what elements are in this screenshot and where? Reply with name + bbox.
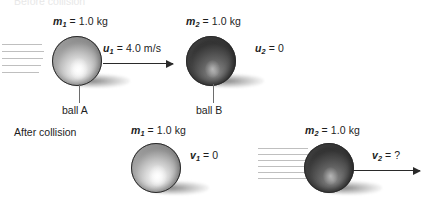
after-ball-a-velocity-label: v1 = 0 <box>190 149 218 163</box>
ball-b-velocity-label: u2 = 0 <box>255 42 284 56</box>
ball-b-velocity-symbol: u <box>255 42 262 54</box>
after-ball-b-velocity-subscript: 2 <box>378 154 382 163</box>
after-ball-b-mass-value: = 1.0 kg <box>322 124 360 136</box>
before-collision-heading: Before collision <box>14 0 85 7</box>
ball-b-velocity-value: = 0 <box>269 42 284 54</box>
after-collision-heading: After collision <box>14 126 76 138</box>
ball-b-mass-label: m2 = 1.0 kg <box>186 15 241 29</box>
ball-a-body <box>52 36 102 86</box>
after-ball-b-velocity-label: v2 = ? <box>372 149 400 163</box>
after-ball-a-velocity-subscript: 1 <box>196 154 200 163</box>
after-ball-a-body <box>131 143 181 193</box>
collision-diagram: Before collision m1 = 1.0 kg ball A u1 =… <box>0 0 428 207</box>
ball-a-mass-subscript: 1 <box>62 20 66 29</box>
after-ball-a-sphere <box>131 143 189 201</box>
ball-b-leader-line <box>213 84 214 103</box>
ball-a-name-label: ball A <box>62 104 88 116</box>
ball-b-body <box>186 36 236 86</box>
ball-a-leader-line <box>79 84 80 103</box>
motion-lines-ball-a <box>2 44 44 78</box>
after-ball-b-velocity-value: = ? <box>385 149 400 161</box>
ball-b-mass-subscript: 2 <box>195 20 199 29</box>
after-ball-a-mass-value: = 1.0 kg <box>148 124 186 136</box>
after-ball-a-velocity-value: = 0 <box>203 149 218 161</box>
ball-b-mass-value: = 1.0 kg <box>203 15 241 27</box>
ball-b-velocity-subscript: 2 <box>262 47 266 56</box>
ball-a-velocity-subscript: 1 <box>110 47 114 56</box>
ball-a-mass-label: m1 = 1.0 kg <box>53 15 108 29</box>
ball-a-sphere <box>52 36 110 94</box>
after-ball-b-mass-subscript: 2 <box>314 129 318 138</box>
after-ball-a-mass-label: m1 = 1.0 kg <box>131 124 186 138</box>
after-ball-a-mass-subscript: 1 <box>140 129 144 138</box>
ball-a-velocity-label: u1 = 4.0 m/s <box>103 42 161 56</box>
after-ball-b-body <box>304 143 354 193</box>
ball-b-sphere <box>186 36 244 94</box>
ball-a-velocity-symbol: u <box>103 42 110 54</box>
ball-a-arrow-head <box>166 60 174 68</box>
after-ball-b-sphere <box>304 143 362 201</box>
ball-b-name-label: ball B <box>196 104 222 116</box>
ball-a-mass-value: = 1.0 kg <box>70 15 108 27</box>
after-ball-b-mass-label: m2 = 1.0 kg <box>305 124 360 138</box>
ball-a-velocity-arrow <box>103 63 173 64</box>
ball-a-arrow-shaft <box>103 63 173 64</box>
ball-a-velocity-value: = 4.0 m/s <box>117 42 161 54</box>
after-ball-b-arrow-shaft <box>352 170 420 171</box>
after-ball-b-arrow-head <box>413 167 421 175</box>
after-ball-b-velocity-arrow <box>352 170 420 171</box>
